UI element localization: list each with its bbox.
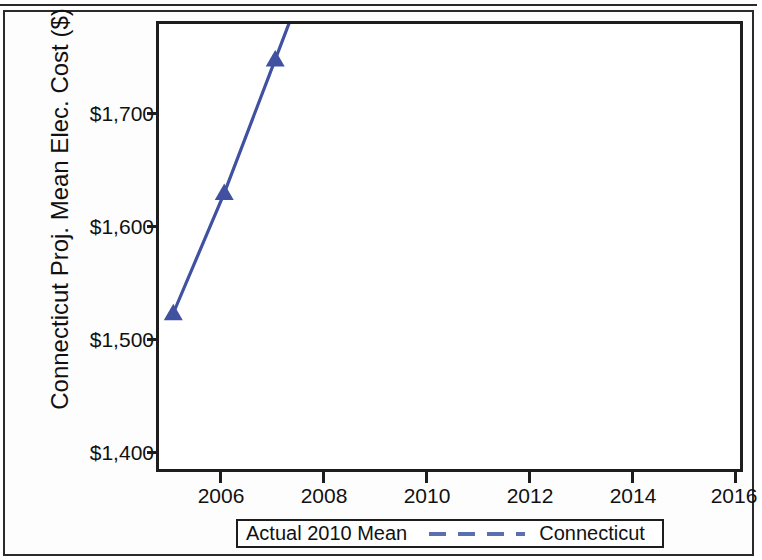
x-tick-label-2016: 2016	[689, 484, 762, 508]
y-tick-label-1400: $1,400	[44, 441, 154, 465]
data-series-layer	[173, 24, 734, 313]
x-tick-mark-2006	[219, 472, 222, 483]
x-tick-mark-2010	[425, 472, 428, 483]
legend-title: Actual 2010 Mean	[246, 522, 407, 545]
legend-entry-connecticut: Connecticut	[539, 522, 645, 545]
x-tick-label-2014: 2014	[588, 484, 678, 508]
x-tick-label-2010: 2010	[382, 484, 472, 508]
x-tick-label-2006: 2006	[176, 484, 266, 508]
data-point-marker	[215, 184, 234, 201]
page-top-rule	[0, 4, 757, 6]
plot-area	[156, 21, 743, 472]
legend-dashed-line-swatch	[429, 532, 525, 536]
x-tick-mark-2016	[734, 472, 737, 483]
series-line-connecticut	[173, 24, 734, 313]
x-tick-mark-2008	[322, 472, 325, 483]
data-point-marker	[164, 304, 183, 321]
y-tick-label-1700: $1,700	[44, 102, 154, 126]
x-tick-label-2008: 2008	[279, 484, 369, 508]
chart-legend: Actual 2010 Mean Connecticut	[236, 519, 664, 548]
data-marker-layer	[164, 24, 740, 320]
y-tick-label-1500: $1,500	[44, 328, 154, 352]
data-point-marker	[266, 50, 285, 67]
x-tick-label-2012: 2012	[485, 484, 575, 508]
chart-canvas	[159, 24, 740, 469]
y-axis-title: Connecticut Proj. Mean Elec. Cost ($)	[46, 0, 74, 419]
y-tick-label-1600: $1,600	[44, 215, 154, 239]
x-tick-mark-2014	[631, 472, 634, 483]
x-tick-mark-2012	[528, 472, 531, 483]
